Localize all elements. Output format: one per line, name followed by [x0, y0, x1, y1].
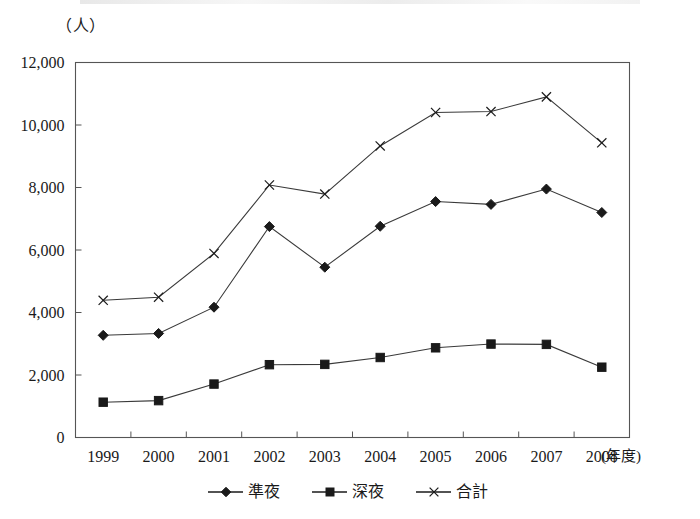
marker-square — [431, 344, 439, 352]
x-axis-tick-label: 2002 — [253, 448, 285, 465]
series-line — [103, 189, 602, 335]
x-axis-unit-label: (年度) — [601, 448, 641, 465]
marker-diamond — [221, 487, 231, 497]
x-axis-tick-group: 1999200020012002200320042005200620072008 — [87, 432, 618, 465]
marker-square — [598, 363, 606, 371]
marker-diamond — [98, 330, 108, 340]
marker-diamond — [431, 197, 441, 207]
series-深夜 — [99, 340, 606, 407]
marker-diamond — [320, 262, 330, 272]
marker-diamond — [375, 221, 385, 231]
y-axis-tick-label: 2,000 — [29, 367, 65, 384]
x-axis-tick-label: 2005 — [420, 448, 452, 465]
series-合計 — [99, 92, 607, 305]
marker-square — [542, 340, 550, 348]
x-axis-tick-label: 1999 — [87, 448, 119, 465]
marker-diamond — [486, 199, 496, 209]
x-axis-tick-label: 2006 — [475, 448, 507, 465]
y-axis-tick-label: 4,000 — [29, 304, 65, 321]
x-axis-tick-label: 2007 — [530, 448, 562, 465]
x-axis-tick-label: 2004 — [364, 448, 396, 465]
y-axis-tick-label: 10,000 — [21, 117, 65, 134]
legend-label: 合計 — [456, 483, 488, 500]
legend-item-深夜[interactable]: 深夜 — [312, 483, 384, 500]
y-axis-tick-label: 8,000 — [29, 179, 65, 196]
x-axis-tick-label: 2000 — [143, 448, 175, 465]
series-group — [98, 92, 607, 406]
marker-diamond — [541, 184, 551, 194]
marker-square — [326, 488, 334, 496]
legend-item-準夜[interactable]: 準夜 — [208, 483, 280, 500]
series-line — [103, 344, 602, 402]
marker-square — [487, 340, 495, 348]
x-axis-tick-label: 2001 — [198, 448, 230, 465]
marker-square — [210, 380, 218, 388]
plot-frame — [76, 63, 630, 438]
chart-canvas: 02,0004,0006,0008,00010,00012,000 199920… — [0, 0, 700, 519]
marker-square — [99, 398, 107, 406]
series-準夜 — [98, 184, 607, 340]
marker-square — [265, 360, 273, 368]
marker-square — [154, 396, 162, 404]
marker-diamond — [264, 222, 274, 232]
chart-legend: 準夜深夜合計 — [208, 483, 488, 500]
y-axis-tick-group: 02,0004,0006,0008,00010,00012,000 — [21, 54, 82, 446]
y-axis-tick-label: 6,000 — [29, 242, 65, 259]
y-axis-tick-label: 0 — [57, 429, 65, 446]
series-line — [103, 97, 602, 300]
marker-diamond — [597, 208, 607, 218]
line-chart: （人） 02,0004,0006,0008,00010,00012,000 19… — [0, 0, 700, 519]
legend-label: 深夜 — [352, 483, 384, 500]
legend-item-合計[interactable]: 合計 — [416, 483, 488, 500]
y-axis-tick-label: 12,000 — [21, 54, 65, 71]
legend-label: 準夜 — [248, 483, 280, 500]
x-axis-tick-label: 2003 — [309, 448, 341, 465]
marker-diamond — [154, 328, 164, 338]
marker-square — [376, 353, 384, 361]
marker-diamond — [209, 302, 219, 312]
marker-square — [321, 360, 329, 368]
